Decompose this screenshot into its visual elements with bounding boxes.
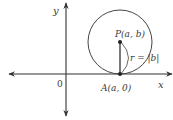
origin-label: 0 <box>57 79 63 89</box>
x-axis-label: x <box>158 79 164 90</box>
y-axis-label: y <box>52 5 59 16</box>
tangent-point-label: A(a, 0) <box>100 83 132 93</box>
tangent-point-a <box>118 72 122 76</box>
radius-label: r = |b| <box>130 53 159 64</box>
center-point-p <box>118 40 122 44</box>
radius-bracket-arc <box>121 42 129 74</box>
center-point-label: P(a, b) <box>114 29 145 39</box>
circle-diagram: y x 0 P(a, b) r = |b| A(a, 0) <box>0 0 173 120</box>
